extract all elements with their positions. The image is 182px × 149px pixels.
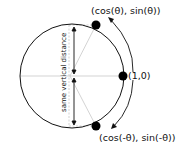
- label-top-point: (cos(θ), sin(θ)): [91, 5, 161, 16]
- point-one-zero: [119, 72, 128, 81]
- point-neg-theta: [92, 122, 101, 131]
- label-right-point: (1,0): [128, 70, 151, 81]
- point-theta: [92, 21, 101, 30]
- label-bottom-point: (cos(-θ), sin(-θ)): [99, 132, 175, 143]
- unit-circle-diagram: (cos(θ), sin(θ)) (1,0) (cos(-θ), sin(-θ)…: [0, 0, 182, 149]
- label-vertical-distance: same vertical distance: [60, 33, 68, 112]
